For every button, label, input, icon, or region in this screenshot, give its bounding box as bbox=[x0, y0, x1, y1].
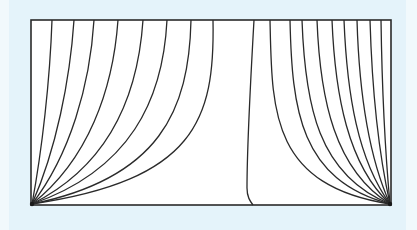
diagram-stage bbox=[0, 0, 417, 230]
left-source-point bbox=[30, 202, 34, 206]
right-source-point bbox=[388, 202, 392, 206]
field-lines-diagram bbox=[0, 0, 417, 230]
